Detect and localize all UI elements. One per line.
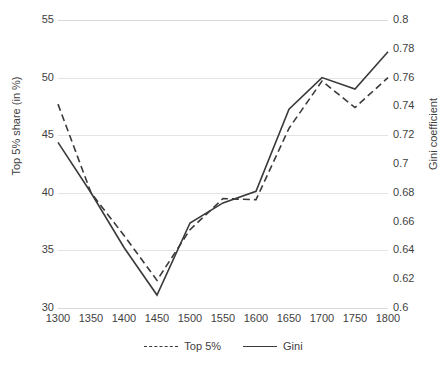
line-chart: 555045403530 0.80.780.760.740.720.70.680… xyxy=(0,0,447,368)
legend-label: Top 5% xyxy=(184,340,221,352)
chart-legend: Top 5%Gini xyxy=(0,340,447,352)
y-axis-right-tick-label: 0.66 xyxy=(393,216,433,227)
series-line-top-5 xyxy=(58,78,388,281)
y-axis-left-tick-label: 55 xyxy=(18,14,54,25)
y-axis-right-tick-label: 0.78 xyxy=(393,43,433,54)
y-axis-left-tick-label: 45 xyxy=(18,129,54,140)
legend-item-top-5[interactable]: Top 5% xyxy=(144,340,221,352)
legend-item-gini[interactable]: Gini xyxy=(243,340,303,352)
y-axis-right-tick-label: 0.8 xyxy=(393,14,433,25)
gridline xyxy=(58,308,388,309)
legend-swatch-dashed xyxy=(144,346,178,347)
series-line-gini xyxy=(58,52,388,295)
y-axis-left-title: Top 5% share (in %) xyxy=(10,66,22,186)
y-axis-left-tick-label: 50 xyxy=(18,72,54,83)
y-axis-right-tick-label: 0.64 xyxy=(393,244,433,255)
legend-label: Gini xyxy=(283,340,303,352)
plot-area xyxy=(58,20,388,308)
y-axis-left-tick-label: 40 xyxy=(18,187,54,198)
y-axis-left-tick-label: 35 xyxy=(18,244,54,255)
y-axis-right-tick-label: 0.62 xyxy=(393,273,433,284)
legend-swatch-solid xyxy=(243,346,277,347)
y-axis-right-title: Gini coefficient xyxy=(427,74,439,194)
series-lines xyxy=(58,20,388,308)
x-axis-tick-label: 1800 xyxy=(368,313,408,324)
